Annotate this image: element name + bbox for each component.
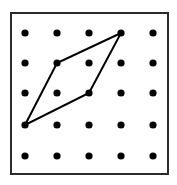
figure-container bbox=[0, 0, 177, 185]
lattice-dot-r3-c5 bbox=[149, 89, 156, 96]
lattice-dot-r1-c2 bbox=[53, 29, 60, 36]
lattice-dot-r1-c5 bbox=[149, 29, 156, 36]
lattice-dot-r2-c1 bbox=[21, 59, 28, 66]
lattice-parallelogram-figure bbox=[0, 0, 177, 185]
lattice-dot-r4-c3 bbox=[85, 121, 92, 128]
lattice-dot-r1-c1 bbox=[21, 29, 28, 36]
lattice-dot-r5-c3 bbox=[85, 152, 92, 159]
lattice-dot-r3-c2 bbox=[53, 89, 60, 96]
lattice-dot-r5-c4 bbox=[117, 152, 124, 159]
lattice-dot-r4-c5 bbox=[149, 121, 156, 128]
lattice-dot-r1-c3 bbox=[85, 29, 92, 36]
lattice-dot-r3-c1 bbox=[21, 89, 28, 96]
lattice-dot-r5-c5 bbox=[149, 152, 156, 159]
lattice-dot-r2-c5 bbox=[149, 59, 156, 66]
lattice-dot-r5-c2 bbox=[53, 152, 60, 159]
lattice-dot-r5-c1 bbox=[21, 152, 28, 159]
lattice-dot-r2-c3 bbox=[85, 59, 92, 66]
lattice-dot-r4-c2 bbox=[53, 121, 60, 128]
lattice-dot-r4-c4 bbox=[117, 121, 124, 128]
lattice-dot-r2-c4 bbox=[117, 59, 124, 66]
lattice-dot-r3-c4 bbox=[117, 89, 124, 96]
